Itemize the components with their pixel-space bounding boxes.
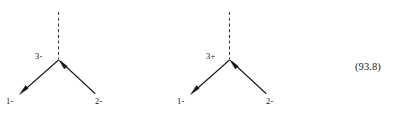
left-diagram-lower-right-arrowhead-icon	[59, 60, 68, 69]
left-diagram-lower-right-label: 2-	[95, 97, 102, 106]
left-diagram-lower-left-label: 1-	[6, 97, 13, 106]
right-diagram-vertex-label: 3+	[206, 52, 215, 61]
figure-root: 3- 1- 2- 3+ 1- 2- (93.8)	[0, 0, 394, 115]
right-diagram-lower-left-branch	[195, 60, 230, 91]
right-diagram-lower-left-arrowhead-icon	[191, 86, 200, 95]
value-annotation: (93.8)	[355, 62, 381, 73]
left-diagram-lower-left-arrowhead-icon	[20, 86, 29, 95]
right-diagram	[191, 12, 267, 95]
left-diagram	[20, 12, 96, 95]
left-diagram-vertex-label: 3-	[35, 52, 42, 61]
right-diagram-lower-right-label: 2-	[266, 97, 273, 106]
right-diagram-lower-right-arrowhead-icon	[230, 60, 239, 69]
right-diagram-lower-left-label: 1-	[177, 97, 184, 106]
vector-diagram-canvas	[0, 0, 394, 115]
left-diagram-lower-left-branch	[24, 60, 59, 91]
